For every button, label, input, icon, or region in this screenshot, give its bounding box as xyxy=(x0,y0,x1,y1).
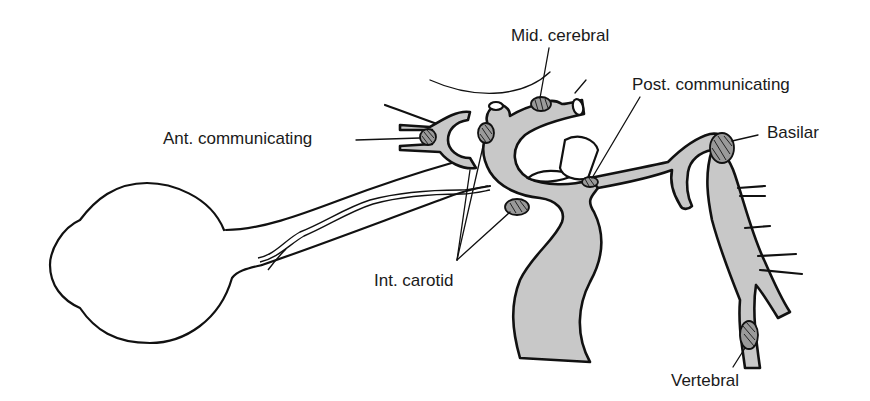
aneurysm-ant-communicating xyxy=(420,129,436,145)
ophthalmic-artery xyxy=(258,186,488,258)
posterior-communicating-artery xyxy=(590,134,727,209)
label-ant-communicating: Ant. communicating xyxy=(163,130,312,147)
leader-basilar xyxy=(732,135,758,141)
ica-top-opening xyxy=(489,102,503,110)
aneurysm-int-carotid-upper xyxy=(478,123,494,143)
aneurysm-basilar xyxy=(710,133,734,163)
pontine-branch-1 xyxy=(738,186,765,188)
aneurysm-mid-cerebral xyxy=(531,97,551,111)
aneurysm-diagram: Mid. cerebral Ant. communicating Post. c… xyxy=(0,0,870,401)
ophthalmic-branch xyxy=(268,249,286,270)
leader-int-carotid-2 xyxy=(457,212,510,260)
ophthalmic-artery-inner xyxy=(260,190,490,262)
label-int-carotid: Int. carotid xyxy=(374,272,453,289)
eyeball xyxy=(50,183,262,343)
aneurysm-vertebral xyxy=(740,321,758,349)
reference-tick xyxy=(575,80,586,93)
leader-mid-cerebral xyxy=(540,48,549,98)
anterior-cerebral-branch xyxy=(400,112,476,169)
label-post-communicating: Post. communicating xyxy=(632,76,790,93)
reference-arc xyxy=(430,72,550,93)
anterior-cerebral-branch-upper xyxy=(385,105,440,125)
aneurysm-post-communicating xyxy=(582,177,598,187)
pontine-branch-3 xyxy=(758,254,796,256)
label-mid-cerebral: Mid. cerebral xyxy=(511,27,609,44)
label-vertebral: Vertebral xyxy=(671,372,739,389)
cylinder-structure xyxy=(560,137,598,180)
leader-post-communicating xyxy=(592,97,640,178)
label-basilar: Basilar xyxy=(767,124,819,141)
leader-ant-communicating xyxy=(356,138,420,140)
diagram-artwork xyxy=(0,0,870,401)
leader-int-carotid-3 xyxy=(457,170,470,260)
